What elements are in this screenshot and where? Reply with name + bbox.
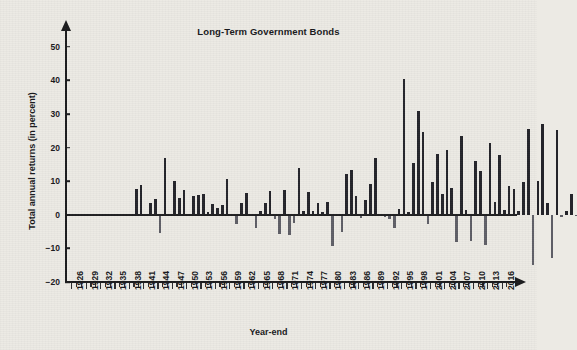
bar-2013 — [551, 215, 554, 259]
bar-1951 — [255, 215, 258, 228]
x-axis-tick-label: 1950 — [190, 271, 200, 290]
x-axis-tick-mark — [301, 283, 302, 289]
chart-title: Long-Term Government Bonds — [0, 26, 537, 37]
bar-1992 — [450, 188, 453, 215]
bar-1930 — [154, 199, 157, 215]
x-axis-tick-label: 1992 — [391, 271, 401, 290]
x-axis-tick-label: 1926 — [75, 271, 85, 290]
x-axis-tick-label: 1953 — [204, 271, 214, 290]
bar-1935 — [178, 198, 181, 215]
y-axis-tick-label-group: 50403020100−10−20 — [20, 0, 60, 350]
plot-area — [65, 30, 520, 282]
bar-1970 — [345, 174, 348, 215]
x-axis-tick-label: 1941 — [147, 271, 157, 290]
x-axis-tick-mark — [143, 283, 144, 289]
x-axis-tick-mark — [71, 283, 72, 289]
bar-1960 — [298, 168, 301, 214]
bar-1985 — [417, 111, 420, 215]
y-axis-tick-label: 30 — [51, 109, 60, 119]
bar-2017 — [570, 194, 573, 215]
x-axis-tick-label: 1983 — [348, 271, 358, 290]
x-axis-tick-mark — [358, 283, 359, 289]
x-axis-tick-mark — [502, 283, 503, 289]
bar-1984 — [412, 163, 415, 215]
bar-1986 — [422, 132, 425, 214]
y-axis-tick-mark — [65, 281, 70, 283]
bar-1958 — [288, 215, 291, 235]
y-axis-tick-label: 50 — [51, 42, 60, 52]
bar-1989 — [436, 154, 439, 215]
x-axis-tick-label: 1947 — [176, 271, 186, 290]
bar-1938 — [192, 196, 195, 214]
x-axis-tick-label: 1977 — [319, 271, 329, 290]
bar-1927 — [140, 185, 143, 215]
bar-1996 — [470, 215, 473, 241]
x-axis-tick-mark — [258, 283, 259, 289]
x-axis-tick-label: 1929 — [90, 271, 100, 290]
bar-1931 — [159, 215, 162, 233]
bar-2015 — [560, 215, 563, 217]
bar-1936 — [183, 190, 186, 215]
bar-1939 — [197, 195, 200, 215]
y-axis-tick-label: 0 — [55, 210, 60, 220]
x-axis-tick-mark — [114, 283, 115, 289]
bar-2009 — [532, 215, 535, 265]
bar-2016 — [565, 211, 568, 215]
x-axis-tick-mark — [157, 283, 158, 289]
x-axis-tick-label: 1968 — [276, 271, 286, 290]
bar-1940 — [202, 194, 205, 214]
y-axis-line — [65, 30, 67, 282]
bar-1953 — [264, 203, 267, 215]
x-axis-tick-mark — [243, 283, 244, 289]
bar-1994 — [460, 136, 463, 215]
bar-1999 — [484, 215, 487, 245]
x-axis-tick-label: 2007 — [462, 271, 472, 290]
x-axis-tick-label: 2010 — [477, 271, 487, 290]
x-axis-tick-mark — [372, 283, 373, 289]
x-axis-tick-label: 1959 — [233, 271, 243, 290]
bar-2001 — [494, 202, 497, 214]
x-axis-tick-label: 1986 — [362, 271, 372, 290]
x-axis-tick-label: 1998 — [419, 271, 429, 290]
bar-1954 — [269, 191, 272, 215]
bar-1972 — [355, 196, 358, 215]
y-axis-tick-mark — [65, 180, 70, 182]
bar-1947 — [235, 215, 238, 224]
bar-1987 — [427, 215, 430, 224]
bar-2007 — [522, 182, 525, 215]
x-axis-tick-label: 1935 — [118, 271, 128, 290]
bar-1969 — [341, 215, 344, 232]
bar-1991 — [446, 150, 449, 215]
x-axis-tick-label: 1980 — [333, 271, 343, 290]
bar-1976 — [374, 158, 377, 214]
y-axis-tick-mark — [65, 147, 70, 149]
bar-1926 — [135, 189, 138, 215]
bar-2005 — [513, 189, 516, 215]
x-axis-tick-mark — [200, 283, 201, 289]
bar-1993 — [455, 215, 458, 242]
x-axis-tick-label: 2016 — [506, 271, 516, 290]
bar-1932 — [164, 158, 167, 214]
x-axis-tick-label: 1944 — [161, 271, 171, 290]
x-axis-tick-mark — [473, 283, 474, 289]
bar-2012 — [546, 203, 549, 214]
y-axis-tick-mark — [65, 113, 70, 115]
x-axis-tick-mark — [286, 283, 287, 289]
bar-1949 — [245, 193, 248, 215]
bar-1956 — [278, 215, 281, 234]
x-axis-tick-mark — [415, 283, 416, 289]
y-axis-tick-mark — [65, 80, 70, 82]
y-axis-tick-label: −20 — [46, 277, 60, 287]
bar-1974 — [364, 200, 367, 215]
bar-2002 — [498, 155, 501, 215]
bar-1975 — [369, 184, 372, 215]
x-axis-tick-label: 2001 — [434, 271, 444, 290]
y-axis-tick-mark — [65, 214, 70, 216]
x-axis-tick-label: 1932 — [104, 271, 114, 290]
x-axis-tick-label: 2013 — [491, 271, 501, 290]
bar-1962 — [307, 192, 310, 215]
x-axis-tick-mark — [172, 283, 173, 289]
y-axis-tick-mark — [65, 46, 70, 48]
x-axis-title: Year-end — [0, 327, 537, 337]
